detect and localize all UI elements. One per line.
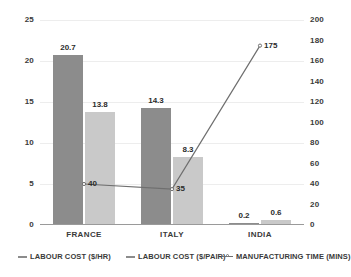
right-axis-tick-label: 60 xyxy=(310,160,319,168)
gridline xyxy=(40,20,304,21)
bar-italy-hr[interactable] xyxy=(141,108,171,225)
right-axis-tick-label: 160 xyxy=(310,57,324,65)
legend-swatch-icon xyxy=(126,256,135,258)
right-value-axis: 020406080100120140160180200 xyxy=(310,20,350,225)
bar-france-hr[interactable] xyxy=(53,55,83,225)
right-axis-tick-label: 120 xyxy=(310,98,324,106)
chart-container: 0510152025 020406080100120140160180200 2… xyxy=(0,0,351,277)
bar-value-label: 13.8 xyxy=(79,101,121,109)
legend-label: MANUFACTURING TIME (MINS) xyxy=(236,253,351,261)
left-axis-tick-label: 20 xyxy=(25,57,34,65)
legend-item-manufacturing-time[interactable]: MANUFACTURING TIME (MINS) xyxy=(222,253,351,261)
right-axis-tick-label: 20 xyxy=(310,201,319,209)
right-axis-tick-label: 180 xyxy=(310,37,324,45)
right-axis-tick-label: 100 xyxy=(310,119,324,127)
left-axis-tick-label: 15 xyxy=(25,98,34,106)
bar-value-label: 0.6 xyxy=(255,209,297,217)
category-label-italy: ITALY xyxy=(132,231,212,239)
left-axis-tick-label: 5 xyxy=(29,180,34,188)
bar-france-pair[interactable] xyxy=(85,112,115,225)
line-value-label: 175 xyxy=(264,42,277,50)
category-label-france: FRANCE xyxy=(44,231,124,239)
bar-value-label: 8.3 xyxy=(167,146,209,154)
right-axis-tick-label: 200 xyxy=(310,16,324,24)
axis-baseline xyxy=(40,224,304,225)
category-label-india: INDIA xyxy=(220,231,300,239)
legend-swatch-icon xyxy=(18,256,27,258)
line-value-label: 35 xyxy=(176,185,185,193)
left-axis-tick-label: 10 xyxy=(25,139,34,147)
legend-label: LABOUR COST ($/PAIR) xyxy=(138,253,226,261)
legend-item-labour-cost-hr[interactable]: LABOUR COST ($/HR) xyxy=(18,253,111,261)
bar-value-label: 20.7 xyxy=(47,44,89,52)
plot-area: 20.713.814.38.30.20.6 4035175 xyxy=(40,20,304,225)
left-value-axis: 0510152025 xyxy=(0,20,34,225)
legend-line-marker-icon xyxy=(222,256,233,257)
right-axis-tick-label: 80 xyxy=(310,139,319,147)
legend-label: LABOUR COST ($/HR) xyxy=(30,253,111,261)
left-axis-tick-label: 25 xyxy=(25,16,34,24)
line-value-label: 40 xyxy=(88,180,97,188)
right-axis-tick-label: 140 xyxy=(310,78,324,86)
bar-value-label: 14.3 xyxy=(135,97,177,105)
right-axis-tick-label: 0 xyxy=(310,221,315,229)
chart-legend: LABOUR COST ($/HR) LABOUR COST ($/PAIR) … xyxy=(0,253,351,267)
left-axis-tick-label: 0 xyxy=(29,221,34,229)
right-axis-tick-label: 40 xyxy=(310,180,319,188)
legend-item-labour-cost-pair[interactable]: LABOUR COST ($/PAIR) xyxy=(126,253,226,261)
line-data-point[interactable] xyxy=(258,44,261,47)
